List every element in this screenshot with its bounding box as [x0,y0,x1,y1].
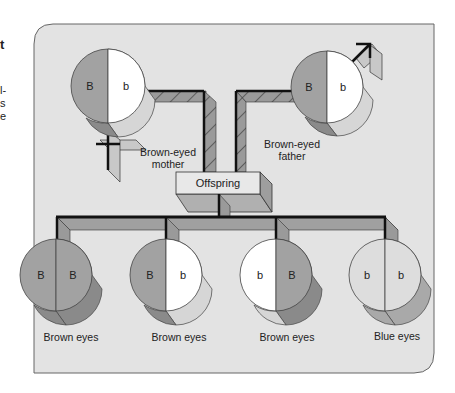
mother-label-line1: Brown-eyed [140,146,196,158]
offspring-4-allele-right: b [398,269,404,281]
inheritance-diagram: t l- s e Offspring [0,0,455,393]
mother-allele-left: B [86,80,93,92]
offspring-4-allele-left: b [364,269,370,281]
offspring-2-allele-left: B [146,269,153,281]
offspring-4-phenotype: Blue eyes [374,330,420,342]
father-label-line2: father [279,150,306,162]
offspring-1-phenotype: Brown eyes [44,331,99,343]
offspring-3-allele-right: B [288,269,295,281]
offspring-box-label: Offspring [196,177,240,189]
mother-label-line2: mother [152,158,185,170]
father-label-line1: Brown-eyed [264,138,320,150]
father-allele-right: b [340,81,346,93]
offspring-3-phenotype: Brown eyes [260,331,315,343]
father-allele-left: B [305,81,312,93]
offspring-2-allele-right: b [180,269,186,281]
offspring-1-allele-right: B [69,269,76,281]
offspring-3-allele-left: b [257,269,263,281]
diagram-canvas: Offspring [0,0,455,393]
offspring-1-allele-left: B [37,269,44,281]
mother-allele-right: b [123,80,129,92]
offspring-2-phenotype: Brown eyes [152,331,207,343]
